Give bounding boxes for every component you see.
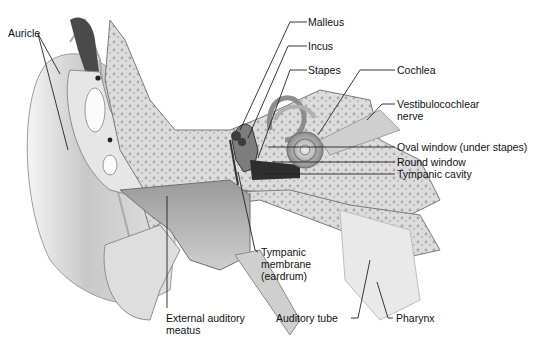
label-pharynx: Pharynx — [396, 312, 435, 324]
label-vestibulocochlear-nerve: Vestibulocochlear nerve — [397, 98, 479, 122]
label-oval-window: Oval window (under stapes) — [397, 141, 527, 153]
cochlea-shape — [287, 132, 323, 168]
ear-illustration — [0, 0, 534, 363]
label-external-auditory-meatus: External auditory meatus — [166, 312, 245, 336]
label-line: nerve — [397, 110, 479, 122]
label-line: membrane — [261, 258, 311, 270]
label-line: Vestibulocochlear — [397, 98, 479, 110]
label-cochlea: Cochlea — [397, 64, 436, 76]
label-tympanic-cavity: Tympanic cavity — [397, 168, 472, 180]
label-stapes: Stapes — [308, 64, 341, 76]
label-auricle: Auricle — [8, 27, 40, 39]
label-line: External auditory — [166, 312, 245, 324]
label-line: Tympanic — [261, 246, 311, 258]
label-auditory-tube: Auditory tube — [276, 312, 338, 324]
label-incus: Incus — [308, 40, 333, 52]
label-tympanic-membrane: Tympanic membrane (eardrum) — [261, 246, 311, 282]
label-line: meatus — [166, 324, 245, 336]
label-round-window: Round window — [397, 156, 466, 168]
label-malleus: Malleus — [308, 16, 344, 28]
ear-anatomy-diagram: Auricle Malleus Incus Stapes Cochlea Ves… — [0, 0, 534, 363]
label-line: (eardrum) — [261, 270, 311, 282]
